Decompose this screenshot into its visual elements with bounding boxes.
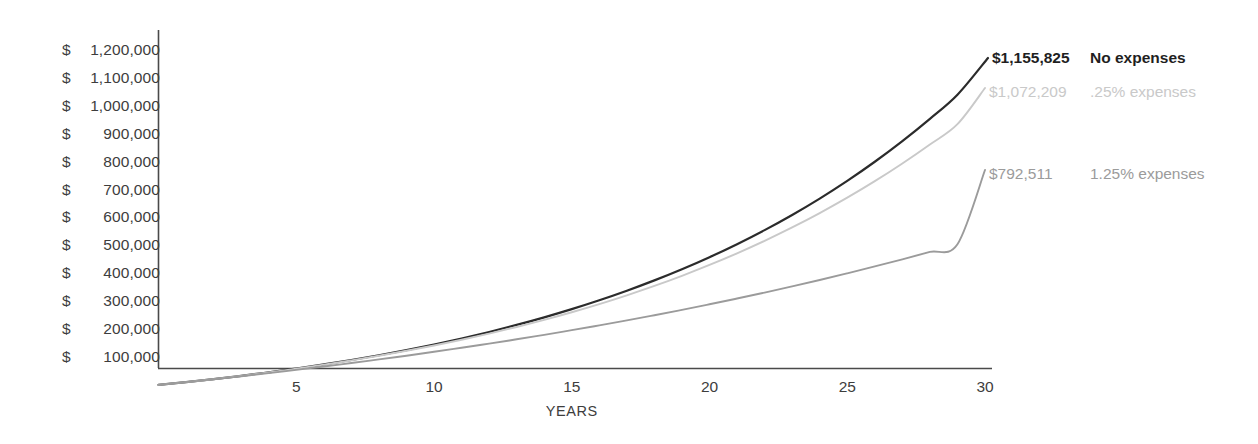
y-axis-tick-label: $700,000 <box>62 181 160 199</box>
y-axis-tick-value: 800,000 <box>74 153 160 171</box>
y-axis-tick-label: $600,000 <box>62 208 160 226</box>
currency-symbol: $ <box>62 69 74 87</box>
y-axis-tick-label: $500,000 <box>62 236 160 254</box>
currency-symbol: $ <box>62 264 74 282</box>
y-axis-tick-label: $300,000 <box>62 292 160 310</box>
x-axis-tick-label: 10 <box>425 378 442 396</box>
y-axis-tick-value: 100,000 <box>74 348 160 366</box>
series-curves <box>159 58 989 385</box>
x-axis-tick-label: 15 <box>563 378 580 396</box>
series-end-value-label: $792,511 <box>989 165 1053 183</box>
currency-symbol: $ <box>62 348 74 366</box>
y-axis-tick-label: $200,000 <box>62 320 160 338</box>
y-axis-tick-value: 400,000 <box>74 264 160 282</box>
y-axis-tick-value: 700,000 <box>74 181 160 199</box>
y-axis-tick-value: 1,100,000 <box>74 69 160 87</box>
series-curve <box>159 58 989 385</box>
currency-symbol: $ <box>62 97 74 115</box>
y-axis-tick-label: $1,000,000 <box>62 97 160 115</box>
currency-symbol: $ <box>62 181 74 199</box>
x-axis-tick-label: 5 <box>292 378 301 396</box>
series-legend-label: No expenses <box>1090 49 1186 67</box>
currency-symbol: $ <box>62 208 74 226</box>
series-legend-label: 1.25% expenses <box>1090 165 1205 183</box>
y-axis-tick-value: 900,000 <box>74 125 160 143</box>
y-axis-tick-label: $1,200,000 <box>62 41 160 59</box>
y-axis-tick-value: 1,200,000 <box>74 41 160 59</box>
y-axis-tick-label: $1,100,000 <box>62 69 160 87</box>
series-end-value-label: $1,072,209 <box>989 83 1067 101</box>
x-axis-tick-label: 30 <box>976 378 993 396</box>
currency-symbol: $ <box>62 153 74 171</box>
currency-symbol: $ <box>62 41 74 59</box>
y-axis-tick-value: 600,000 <box>74 208 160 226</box>
y-axis-tick-label: $800,000 <box>62 153 160 171</box>
y-axis-tick-value: 1,000,000 <box>74 97 160 115</box>
x-axis-title: YEARS <box>546 403 598 419</box>
currency-symbol: $ <box>62 236 74 254</box>
series-curve <box>159 170 986 385</box>
currency-symbol: $ <box>62 320 74 338</box>
y-axis-tick-label: $400,000 <box>62 264 160 282</box>
y-axis-tick-value: 500,000 <box>74 236 160 254</box>
x-axis-tick-label: 20 <box>701 378 718 396</box>
series-curve <box>159 88 986 385</box>
y-axis-tick-value: 200,000 <box>74 320 160 338</box>
currency-symbol: $ <box>62 125 74 143</box>
investment-growth-chart: $1,200,000$1,100,000$1,000,000$900,000$8… <box>0 0 1258 444</box>
x-axis-tick-label: 25 <box>839 378 856 396</box>
series-end-value-label: $1,155,825 <box>992 49 1070 67</box>
series-legend-label: .25% expenses <box>1090 83 1196 101</box>
y-axis-tick-label: $900,000 <box>62 125 160 143</box>
y-axis-tick-label: $100,000 <box>62 348 160 366</box>
y-axis-tick-value: 300,000 <box>74 292 160 310</box>
currency-symbol: $ <box>62 292 74 310</box>
